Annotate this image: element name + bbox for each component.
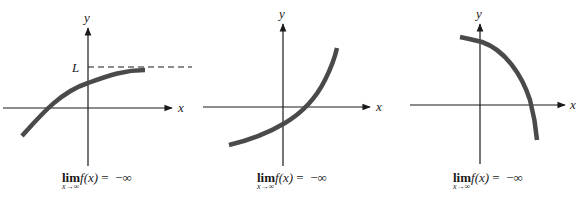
panel-2-caption-subscript: x→∞	[257, 182, 274, 191]
panel-2-graph: x y	[203, 6, 382, 166]
panel-1-caption-func: f(x)	[80, 170, 98, 185]
panel-1-curve	[22, 70, 145, 136]
panel-1-x-label: x	[177, 100, 184, 115]
panel-2-caption: limf(x) = −∞ x→∞	[257, 168, 327, 186]
panel-1-asymptote-label: L	[71, 60, 79, 75]
panel-3-caption: limf(x) = −∞ x→∞	[453, 168, 523, 186]
panel-3-caption-func: f(x)	[471, 170, 489, 185]
panel-2-y-label: y	[277, 6, 285, 21]
panel-1-graph: x y L	[3, 10, 192, 166]
panel-3-x-label: x	[569, 97, 576, 112]
panel-3-curve	[460, 37, 537, 140]
panel-1-caption: limf(x) = −∞ x→∞	[62, 168, 132, 186]
panel-3-caption-subscript: x→∞	[453, 182, 470, 191]
panel-2-caption-func: f(x)	[275, 170, 293, 185]
panel-3-caption-value: = −∞	[489, 170, 523, 185]
panel-1-y-label: y	[82, 10, 90, 25]
panel-1-caption-subscript: x→∞	[62, 182, 79, 191]
panel-1-caption-value: = −∞	[98, 170, 132, 185]
panel-3-graph: x y	[410, 6, 576, 164]
panel-2-x-label: x	[375, 99, 382, 114]
panel-2-caption-value: = −∞	[293, 170, 327, 185]
panel-3-y-label: y	[474, 6, 482, 21]
